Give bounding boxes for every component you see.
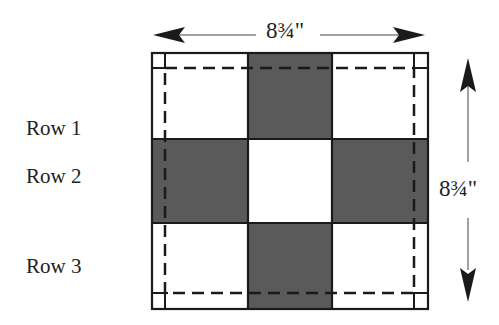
height-dimension-label: 8¾" bbox=[437, 176, 479, 202]
width-dimension-label: 8¾" bbox=[264, 18, 306, 44]
dark-patches bbox=[152, 53, 428, 309]
quilt-block-diagram bbox=[0, 0, 499, 325]
